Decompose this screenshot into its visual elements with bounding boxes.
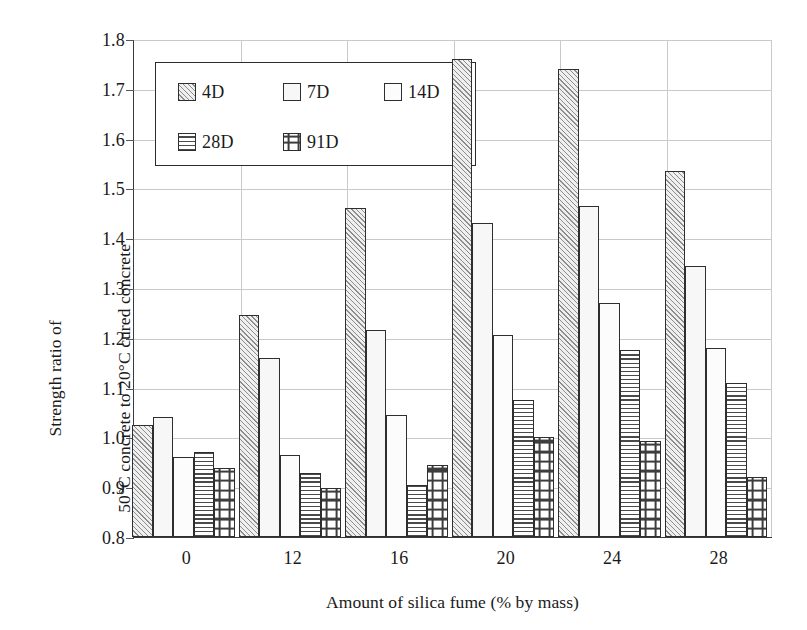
legend-row-bottom: 28D 91D: [156, 125, 475, 159]
bar: [620, 350, 641, 537]
bar: [239, 315, 260, 537]
bar: [685, 266, 706, 537]
bar: [726, 383, 747, 537]
legend-label-14d: 14D: [408, 82, 440, 103]
bar: [513, 400, 534, 537]
legend-item-7d: 7D: [283, 82, 329, 103]
x-tick-label: 20: [497, 548, 515, 569]
bar: [534, 437, 555, 537]
y-tick-mark: [126, 189, 134, 190]
bar: [300, 473, 321, 537]
bar: [194, 452, 215, 537]
y-tick-label: 1.7: [65, 79, 125, 100]
bar: [599, 303, 620, 537]
bar: [472, 223, 493, 537]
bar: [280, 455, 301, 537]
y-axis-title-line1: Strength ratio of: [44, 138, 67, 618]
y-tick-label: 1.8: [65, 30, 125, 51]
x-tick-label: 28: [710, 548, 728, 569]
legend-swatch-4d-icon: [178, 83, 196, 101]
bar: [747, 477, 768, 537]
y-tick-label: 1.6: [65, 129, 125, 150]
bar: [427, 465, 448, 537]
legend-label-4d: 4D: [202, 82, 224, 103]
bar-chart-figure: Strength ratio of 50°C concrete to 20°C …: [0, 0, 807, 630]
x-tick-label: 24: [603, 548, 621, 569]
bar: [173, 457, 194, 537]
bar: [579, 206, 600, 537]
y-tick-label: 1.5: [65, 179, 125, 200]
legend-label-28d: 28D: [202, 132, 234, 153]
chart-legend: 4D 7D 14D 28D 91D: [155, 62, 476, 166]
bar: [407, 485, 428, 537]
legend-label-91d: 91D: [307, 132, 339, 153]
legend-swatch-91d-icon: [283, 133, 301, 151]
y-tick-mark: [126, 90, 134, 91]
legend-swatch-28d-icon: [178, 133, 196, 151]
x-tick-label: 12: [284, 548, 302, 569]
y-tick-mark: [126, 538, 134, 539]
bar: [366, 330, 387, 537]
y-tick-label: 1.1: [65, 378, 125, 399]
legend-row-top: 4D 7D 14D: [156, 75, 475, 109]
y-tick-mark: [126, 40, 134, 41]
legend-item-4d: 4D: [178, 82, 224, 103]
y-tick-mark: [126, 389, 134, 390]
x-tick-label: 0: [182, 548, 191, 569]
bar: [259, 358, 280, 537]
legend-swatch-14d-icon: [384, 83, 402, 101]
legend-item-14d: 14D: [384, 82, 440, 103]
legend-item-91d: 91D: [283, 132, 339, 153]
y-tick-mark: [126, 339, 134, 340]
bar: [452, 59, 473, 537]
x-axis-title: Amount of silica fume (% by mass): [133, 592, 772, 613]
y-tick-mark: [126, 140, 134, 141]
legend-item-28d: 28D: [178, 132, 234, 153]
y-tick-mark: [126, 289, 134, 290]
bar: [345, 208, 366, 537]
legend-label-7d: 7D: [307, 82, 329, 103]
bar: [558, 69, 579, 537]
bar: [132, 425, 153, 537]
y-tick-label: 1.3: [65, 279, 125, 300]
bar: [153, 417, 174, 537]
bar: [640, 441, 661, 537]
bar: [321, 488, 342, 537]
y-tick-label: 1.0: [65, 428, 125, 449]
x-tick-label: 16: [390, 548, 408, 569]
bar: [706, 348, 727, 537]
y-tick-label: 1.2: [65, 328, 125, 349]
legend-swatch-7d-icon: [283, 83, 301, 101]
bar: [665, 171, 686, 537]
y-tick-label: 0.9: [65, 478, 125, 499]
bar: [386, 415, 407, 537]
bar: [214, 468, 235, 537]
y-tick-mark: [126, 239, 134, 240]
y-tick-label: 0.8: [65, 528, 125, 549]
bar: [493, 335, 514, 537]
y-tick-label: 1.4: [65, 229, 125, 250]
